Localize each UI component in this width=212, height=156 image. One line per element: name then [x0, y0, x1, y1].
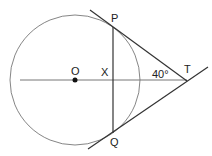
label-Q: Q: [110, 136, 119, 148]
label-O: O: [71, 65, 80, 77]
geometry-diagram: P Q O X T 40°: [0, 0, 212, 156]
label-T: T: [184, 63, 191, 75]
label-X: X: [101, 66, 109, 78]
label-angle: 40°: [152, 68, 169, 80]
tangent-TQ: [88, 67, 208, 149]
label-P: P: [111, 12, 118, 24]
centre-point-O: [73, 78, 78, 83]
